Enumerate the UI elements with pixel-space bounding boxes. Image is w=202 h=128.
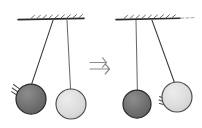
pendulum-ball-dark[interactable] xyxy=(123,90,151,118)
pendulum-light-ball-swinging[interactable] xyxy=(152,20,192,112)
ceiling-bar-line xyxy=(18,18,84,19)
panel-before-collision xyxy=(12,15,86,119)
pendulum-dark-ball-swinging[interactable] xyxy=(12,20,53,114)
pendulum-string xyxy=(67,20,71,90)
pendulum-string xyxy=(31,20,53,86)
pendulum-collision-figure: Pendulum collision: momentum transfer be… xyxy=(0,0,202,128)
pendulum-string xyxy=(152,20,175,84)
figure-canvas xyxy=(0,0,202,128)
pendulum-ball-dark[interactable] xyxy=(16,84,46,114)
ceiling-support-right xyxy=(116,15,194,20)
pendulum-string xyxy=(136,20,137,91)
panel-after-collision xyxy=(116,15,194,118)
ceiling-dashed-extension xyxy=(181,18,194,19)
pendulum-ball-light[interactable] xyxy=(56,89,86,119)
pendulum-dark-ball-at-rest[interactable] xyxy=(123,20,151,118)
pendulum-light-ball-at-rest[interactable] xyxy=(56,20,86,119)
transition-arrow-icon xyxy=(90,58,110,74)
ceiling-support-left xyxy=(18,15,84,20)
pendulum-ball-light[interactable] xyxy=(162,82,192,112)
